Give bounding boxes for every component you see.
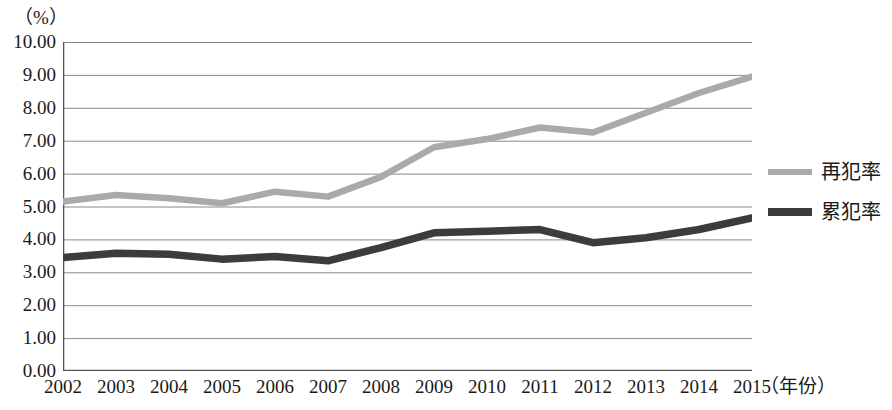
y-axis-tick-label: 6.00 <box>0 164 56 183</box>
y-axis-tick-label: 3.00 <box>0 262 56 281</box>
line-chart: （%） 10.009.008.007.006.005.004.003.002.0… <box>0 0 892 410</box>
y-axis-tick-label: 8.00 <box>0 98 56 117</box>
y-axis-tick-label: 4.00 <box>0 229 56 248</box>
y-axis-tick-label: 10.00 <box>0 32 56 51</box>
chart-legend: 再犯率 累犯率 <box>768 152 892 232</box>
series-line-2 <box>63 218 752 261</box>
y-axis-tick-label: 5.00 <box>0 197 56 216</box>
y-axis-tick-label: 7.00 <box>0 131 56 150</box>
y-axis-tick-labels: 10.009.008.007.006.005.004.003.002.001.0… <box>0 0 56 410</box>
legend-item-series-1: 再犯率 <box>768 152 892 192</box>
legend-swatch-recidivism-rate <box>768 208 812 216</box>
legend-item-series-2: 累犯率 <box>768 192 892 232</box>
legend-label-reoffense-rate: 再犯率 <box>821 162 881 182</box>
y-axis-tick-label: 2.00 <box>0 295 56 314</box>
y-axis-tick-label: 1.00 <box>0 328 56 347</box>
x-axis-unit-caption: （年份） <box>760 376 836 398</box>
series-line-1 <box>63 77 752 204</box>
legend-swatch-reoffense-rate <box>768 169 812 175</box>
plot-area <box>63 42 752 371</box>
x-axis-tick-labels: 2002200320042005200620072008200920102011… <box>0 376 892 408</box>
y-axis-tick-label: 9.00 <box>0 65 56 84</box>
legend-label-recidivism-rate: 累犯率 <box>821 202 881 222</box>
plot-svg <box>63 42 752 371</box>
